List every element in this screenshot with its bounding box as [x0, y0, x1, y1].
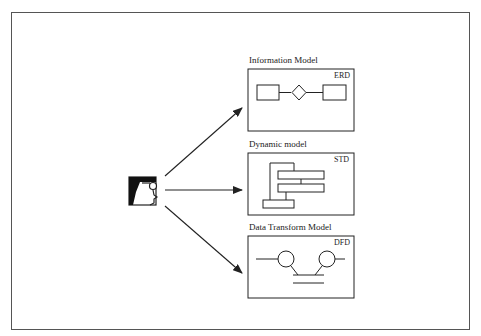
std-tag: STD: [334, 155, 349, 164]
arrow-to-information-model: [165, 108, 242, 176]
erd-tag: ERD: [334, 71, 350, 80]
arrow-to-data-transform-model: [165, 206, 242, 273]
arrows: [165, 108, 242, 273]
dynamic-model-title: Dynamic model: [249, 139, 307, 149]
data-transform-model-title: Data Transform Model: [249, 222, 332, 232]
analyst-profile-icon: [129, 177, 157, 205]
diagram-canvas: [0, 0, 481, 336]
information-model-title: Information Model: [249, 55, 318, 65]
dfd-tag: DFD: [334, 238, 350, 247]
